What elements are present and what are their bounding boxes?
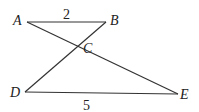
point-label-a: A xyxy=(12,13,22,28)
point-label-d: D xyxy=(9,85,20,100)
segment-ae xyxy=(27,22,178,94)
segment-de xyxy=(25,92,178,94)
point-label-b: B xyxy=(110,13,119,28)
segment-bd xyxy=(25,22,106,92)
point-label-c: C xyxy=(83,41,93,56)
geometry-diagram: A B C D E 2 5 xyxy=(0,0,199,112)
length-label-de: 5 xyxy=(83,98,90,112)
length-label-ab: 2 xyxy=(63,7,70,22)
point-label-e: E xyxy=(179,87,189,102)
